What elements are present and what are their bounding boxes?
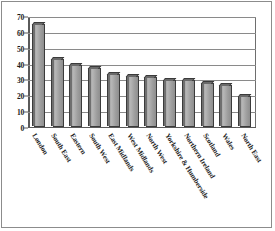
bar-side-face xyxy=(126,76,129,126)
bar-side-face xyxy=(32,24,35,126)
bar[interactable] xyxy=(146,77,157,127)
x-tick-label: Eastern xyxy=(68,132,87,156)
bar-slot xyxy=(32,17,46,127)
bar-top-face xyxy=(182,78,196,81)
bar-slot xyxy=(126,17,140,127)
bar-slot xyxy=(89,17,103,127)
y-tick-mark xyxy=(24,17,28,18)
bar-slot xyxy=(145,17,159,127)
y-tick-mark xyxy=(24,32,28,33)
bar[interactable] xyxy=(71,65,82,127)
y-tick-mark xyxy=(24,48,28,49)
bar-side-face xyxy=(163,80,166,126)
bar[interactable] xyxy=(109,74,120,127)
bar-top-face xyxy=(107,72,121,75)
bar[interactable] xyxy=(221,85,232,127)
bar[interactable] xyxy=(128,76,139,127)
bar-slot xyxy=(201,17,215,127)
bar-side-face xyxy=(88,68,91,126)
bar[interactable] xyxy=(203,83,214,127)
bar-slot xyxy=(182,17,196,127)
bar-series xyxy=(30,17,255,127)
bar[interactable] xyxy=(165,80,176,127)
y-tick-mark xyxy=(24,96,28,97)
bar[interactable] xyxy=(53,59,64,128)
y-tick-mark xyxy=(24,64,28,65)
y-tick-mark xyxy=(24,80,28,81)
x-tick-label: London xyxy=(30,132,49,156)
bar-slot xyxy=(70,17,84,127)
bar-side-face xyxy=(51,59,54,127)
bar-slot xyxy=(51,17,65,127)
x-tick-label: Scotland xyxy=(201,132,222,158)
bar-slot xyxy=(164,17,178,127)
x-axis-line xyxy=(28,127,256,128)
bar-side-face xyxy=(107,74,110,126)
bar-top-face xyxy=(144,75,158,78)
bar-side-face xyxy=(238,96,241,126)
bar-top-face xyxy=(32,22,46,25)
bar[interactable] xyxy=(240,96,251,127)
bar-side-face xyxy=(201,83,204,126)
bar-slot xyxy=(107,17,121,127)
bar-top-face xyxy=(238,94,252,97)
x-tick-label: North East xyxy=(239,132,263,164)
bar[interactable] xyxy=(90,68,101,127)
y-tick-mark xyxy=(24,128,28,129)
bar-slot xyxy=(220,17,234,127)
bar-side-face xyxy=(69,65,72,126)
bar-side-face xyxy=(219,85,222,126)
bar-top-face xyxy=(163,78,177,81)
bar[interactable] xyxy=(184,80,195,127)
bar-top-face xyxy=(50,57,64,60)
bar-slot xyxy=(239,17,253,127)
bar-top-face xyxy=(200,81,214,84)
x-tick-label: Wales xyxy=(220,132,236,151)
bar-top-face xyxy=(219,83,233,86)
bar-side-face xyxy=(182,80,185,126)
plot-area: 010203040506070 xyxy=(28,17,256,128)
x-axis-labels: LondonSouth EastEasternSouth WestEast Mi… xyxy=(30,130,258,225)
bar-top-face xyxy=(69,63,83,66)
bar-top-face xyxy=(125,74,139,77)
y-tick-mark xyxy=(24,112,28,113)
bar-top-face xyxy=(88,66,102,69)
bar[interactable] xyxy=(34,24,45,127)
bar-side-face xyxy=(144,77,147,126)
chart-screenshot: 010203040506070 LondonSouth EastEasternS… xyxy=(0,0,275,231)
